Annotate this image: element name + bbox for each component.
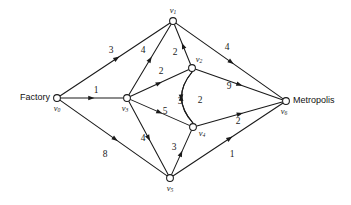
network-flow-diagram: v0v1v2v3v4v5v6 318424295322431 FactoryMe… [0, 0, 351, 205]
edge-capacity-label-v3-v1: 4 [141, 45, 146, 55]
sink-terminal-label: Metropolis [293, 95, 335, 105]
node-label-v2: v2 [196, 54, 203, 65]
node-label-subscript-v3: 3 [124, 107, 128, 113]
source-terminal-label: Factory [20, 92, 51, 102]
edge-capacity-label-v3-v2: 2 [159, 66, 164, 76]
edge-capacity-label-v0-v3: 1 [94, 85, 99, 95]
node-label-v1: v1 [170, 5, 177, 16]
arrowhead-icon [88, 96, 94, 101]
edge-capacity-label-v3-v4: 5 [163, 106, 168, 116]
edge-v2-to-v4 [181, 72, 192, 123]
node-label-v6: v6 [281, 106, 288, 117]
arrowhead-icon [145, 134, 150, 141]
edge-capacity-label-v4-v2: 3 [178, 96, 183, 106]
arrowhead-icon [182, 43, 186, 50]
arrowhead-icon [226, 137, 232, 142]
arrowhead-icon [111, 136, 117, 141]
edge-capacity-label-v5-v6: 1 [230, 149, 235, 159]
node-label-subscript-v5: 5 [170, 187, 173, 193]
edges-layer [60, 23, 282, 176]
arrowhead-icon [178, 151, 183, 158]
arrowhead-icon [156, 109, 163, 114]
edge-capacity-label-v4-v6: 2 [236, 116, 241, 126]
node-label-subscript-v0: 0 [57, 107, 60, 113]
node-v0[interactable] [54, 95, 61, 102]
edge-capacity-label-v2-v4: 2 [198, 95, 203, 105]
arrowheads-layer [88, 43, 243, 157]
node-label-v5: v5 [167, 183, 174, 194]
node-v4[interactable] [190, 124, 197, 131]
node-label-v3: v3 [122, 103, 129, 114]
node-v3[interactable] [124, 95, 131, 102]
network-graph-canvas: v0v1v2v3v4v5v6 318424295322431 FactoryMe… [0, 0, 351, 205]
node-v5[interactable] [167, 175, 174, 182]
edge-capacity-label-v0-v5: 8 [103, 149, 108, 159]
edge-capacity-label-v2-v1: 2 [173, 47, 178, 57]
node-label-subscript-v6: 6 [284, 110, 287, 116]
edge-capacity-label-v0-v1: 3 [109, 45, 114, 55]
node-label-subscript-v1: 1 [173, 9, 176, 15]
edge-capacity-label-v2-v6: 9 [227, 81, 232, 91]
arrowhead-icon [113, 57, 119, 62]
node-v2[interactable] [189, 65, 196, 72]
arrowhead-icon [227, 59, 233, 64]
edge-capacity-label-v1-v6: 4 [225, 42, 230, 52]
edge-capacity-label-v3-v5: 4 [141, 133, 146, 143]
arrowhead-icon [236, 81, 243, 85]
node-label-v4: v4 [199, 128, 206, 139]
arrowhead-icon [147, 57, 152, 64]
edge-capacity-label-v5-v4: 3 [172, 142, 177, 152]
node-v1[interactable] [170, 18, 177, 25]
arrowhead-icon [155, 82, 162, 87]
node-label-subscript-v4: 4 [202, 132, 205, 138]
node-v6[interactable] [283, 98, 290, 105]
node-label-v0: v0 [54, 103, 61, 114]
node-label-subscript-v2: 2 [199, 58, 202, 64]
